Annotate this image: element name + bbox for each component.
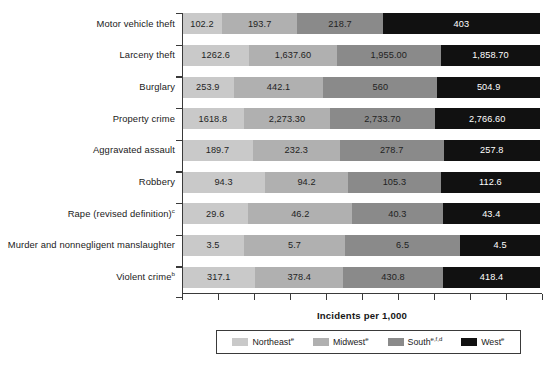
stacked-bar: 1618.82,273.302,733.702,766.60 <box>182 108 540 129</box>
bar-segment-south[interactable]: 2,733.70 <box>330 108 434 129</box>
row-label-property-crime: Property crime <box>0 114 182 124</box>
legend-item-south[interactable]: Southe,f,d <box>388 337 443 347</box>
row-label-rape-revised-definition: Rape (revised definition)c <box>0 209 182 219</box>
bar-segment-northeast[interactable]: 102.2 <box>182 13 222 34</box>
legend-item-west[interactable]: Weste <box>461 337 504 347</box>
bar-segment-south[interactable]: 40.3 <box>352 203 442 224</box>
legend-label: Southe,f,d <box>408 337 443 347</box>
bar-row: Burglary253.9442.1560504.9 <box>0 71 547 103</box>
bar-row: Murder and nonnegligent manslaughter3.55… <box>0 230 547 262</box>
y-axis-tick <box>176 203 182 204</box>
x-axis-tick <box>290 294 291 300</box>
bar-segment-south[interactable]: 6.5 <box>345 235 460 256</box>
bar-row: Motor vehicle theft102.2193.7218.7403 <box>0 8 547 40</box>
x-axis-tick <box>254 294 255 300</box>
row-label-footnote: c <box>172 207 175 214</box>
bar-segment-northeast[interactable]: 1262.6 <box>182 45 249 66</box>
bar-segment-northeast[interactable]: 1618.8 <box>182 108 244 129</box>
bar-segment-northeast[interactable]: 94.3 <box>182 172 265 193</box>
stacked-bar-chart: Motor vehicle theft102.2193.7218.7403Lar… <box>0 0 547 366</box>
bar-segment-midwest[interactable]: 193.7 <box>222 13 298 34</box>
y-axis-tick <box>176 171 182 172</box>
y-axis-tick <box>176 76 182 77</box>
row-label-larceny-theft: Larceny theft <box>0 50 182 60</box>
bar-segment-midwest[interactable]: 46.2 <box>248 203 352 224</box>
bar-segment-west[interactable]: 112.6 <box>441 172 540 193</box>
x-axis-tick <box>182 294 183 300</box>
bar-segment-west[interactable]: 257.8 <box>444 140 540 161</box>
y-axis-tick <box>176 108 182 109</box>
row-label-violent-crime: Violent crimeb <box>0 272 182 282</box>
bar-segment-midwest[interactable]: 442.1 <box>234 77 324 98</box>
bar-segment-west[interactable]: 43.4 <box>443 203 540 224</box>
y-axis-tick <box>176 235 182 236</box>
bar-row: Rape (revised definition)c29.646.240.343… <box>0 198 547 230</box>
legend-swatch-icon <box>313 338 329 346</box>
bar-segment-northeast[interactable]: 29.6 <box>182 203 248 224</box>
x-axis-tick <box>218 294 219 300</box>
legend-item-northeast[interactable]: Northeaste <box>232 337 293 347</box>
bar-segment-northeast[interactable]: 253.9 <box>182 77 234 98</box>
bar-segment-west[interactable]: 2,766.60 <box>435 108 540 129</box>
legend-footnote: e <box>291 336 294 342</box>
row-label-murder-and-nonnegligent-manslaughter: Murder and nonnegligent manslaughter <box>0 240 182 250</box>
bar-rows: Motor vehicle theft102.2193.7218.7403Lar… <box>0 8 547 293</box>
row-label-motor-vehicle-theft: Motor vehicle theft <box>0 19 182 29</box>
y-axis-line <box>182 13 183 293</box>
chart-legend: NortheasteMidwesteSouthe,f,dWeste <box>216 330 521 354</box>
bar-row: Violent crimeb317.1378.4430.8418.4 <box>0 261 547 293</box>
x-axis-tick <box>506 294 507 300</box>
legend-footnote: e,f,d <box>431 336 443 342</box>
bar-segment-midwest[interactable]: 94.2 <box>265 172 348 193</box>
bar-segment-northeast[interactable]: 317.1 <box>182 267 255 288</box>
bar-segment-west[interactable]: 418.4 <box>443 267 540 288</box>
x-axis-tick <box>542 294 543 300</box>
stacked-bar: 317.1378.4430.8418.4 <box>182 267 540 288</box>
bar-segment-northeast[interactable]: 3.5 <box>182 235 244 256</box>
bar-segment-midwest[interactable]: 1,637.60 <box>249 45 336 66</box>
row-label-robbery: Robbery <box>0 177 182 187</box>
legend-footnote: e <box>501 336 504 342</box>
stacked-bar: 102.2193.7218.7403 <box>182 13 540 34</box>
plot-area: Motor vehicle theft102.2193.7218.7403Lar… <box>0 8 547 293</box>
legend-swatch-icon <box>232 338 248 346</box>
bar-segment-west[interactable]: 403 <box>383 13 540 34</box>
x-axis-title: Incidents per 1,000 <box>182 310 542 321</box>
bar-segment-south[interactable]: 278.7 <box>340 140 444 161</box>
bar-segment-west[interactable]: 504.9 <box>437 77 540 98</box>
x-axis-tick <box>434 294 435 300</box>
stacked-bar: 1262.61,637.601,955.001,858.70 <box>182 45 540 66</box>
stacked-bar: 94.394.2105.3112.6 <box>182 172 540 193</box>
x-axis-tick <box>398 294 399 300</box>
row-label-aggravated-assault: Aggravated assault <box>0 145 182 155</box>
bar-segment-south[interactable]: 1,955.00 <box>337 45 441 66</box>
bar-segment-midwest[interactable]: 378.4 <box>255 267 343 288</box>
legend-swatch-icon <box>388 338 404 346</box>
bar-segment-midwest[interactable]: 2,273.30 <box>244 108 331 129</box>
bar-segment-south[interactable]: 430.8 <box>343 267 443 288</box>
bar-segment-south[interactable]: 560 <box>323 77 437 98</box>
stacked-bar: 3.55.76.54.5 <box>182 235 540 256</box>
bar-segment-northeast[interactable]: 189.7 <box>182 140 253 161</box>
x-axis-tick <box>326 294 327 300</box>
bar-row: Property crime1618.82,273.302,733.702,76… <box>0 103 547 135</box>
bar-segment-midwest[interactable]: 5.7 <box>244 235 345 256</box>
legend-label: Midweste <box>333 337 369 347</box>
bar-segment-south[interactable]: 105.3 <box>348 172 441 193</box>
bar-row: Robbery94.394.2105.3112.6 <box>0 166 547 198</box>
row-label-burglary: Burglary <box>0 82 182 92</box>
legend-item-midwest[interactable]: Midweste <box>313 337 369 347</box>
legend-label: Northeaste <box>252 337 293 347</box>
x-axis-tick <box>470 294 471 300</box>
bar-segment-west[interactable]: 1,858.70 <box>441 45 540 66</box>
bar-row: Aggravated assault189.7232.3278.7257.8 <box>0 135 547 167</box>
legend-swatch-icon <box>461 338 477 346</box>
bar-segment-west[interactable]: 4.5 <box>460 235 540 256</box>
legend-label: Weste <box>481 337 504 347</box>
legend-footnote: e <box>365 336 368 342</box>
bar-segment-midwest[interactable]: 232.3 <box>253 140 340 161</box>
y-axis-tick <box>176 45 182 46</box>
y-axis-tick <box>176 140 182 141</box>
y-axis-tick <box>176 266 182 267</box>
bar-segment-south[interactable]: 218.7 <box>297 13 382 34</box>
